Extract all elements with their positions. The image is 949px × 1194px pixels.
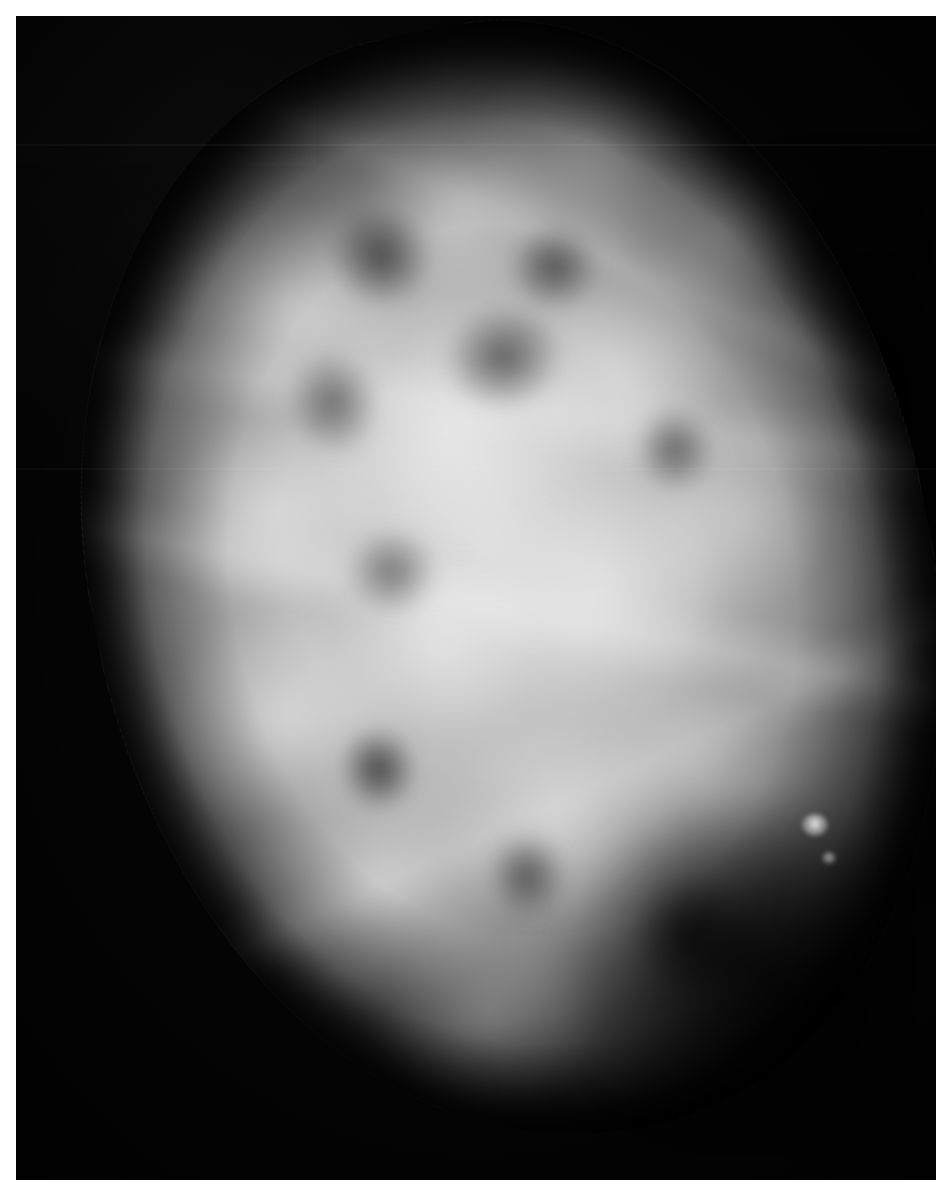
- page-canvas: [0, 0, 949, 1194]
- radiodense-focus-secondary: [822, 852, 836, 864]
- radiograph-film-frame: [16, 16, 936, 1180]
- radiodense-focus: [802, 814, 828, 836]
